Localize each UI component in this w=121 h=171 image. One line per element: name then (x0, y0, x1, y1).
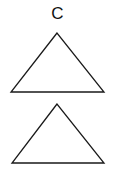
figure-canvas (0, 0, 121, 171)
top-triangle (11, 33, 104, 92)
bottom-triangle (12, 104, 104, 163)
